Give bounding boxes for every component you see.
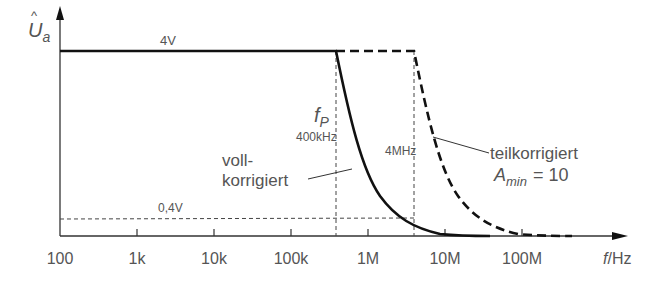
leader-teil bbox=[433, 137, 489, 153]
label-4mhz: 4MHz bbox=[385, 144, 416, 158]
x-axis-unit: /Hz bbox=[607, 250, 631, 267]
hat-icon: ^ bbox=[31, 8, 38, 23]
tick-1k: 1k bbox=[129, 250, 147, 267]
x-axis-arrow-icon bbox=[612, 232, 628, 240]
label-teilkorrigiert: teilkorrigiert bbox=[490, 144, 578, 163]
label-voll: voll- bbox=[222, 151, 253, 170]
tick-100m: 100M bbox=[502, 250, 542, 267]
x-axis-label: f/Hz bbox=[603, 250, 631, 267]
label-fp: fP bbox=[314, 104, 330, 130]
bode-plot: Ua ^ 4V 0,4V fP 400kHz 4MHz voll- korrig… bbox=[0, 0, 663, 288]
tick-100k: 100k bbox=[274, 250, 310, 267]
curve-voll-korrigiert bbox=[60, 51, 490, 236]
label-amin: Amin= 10 bbox=[493, 165, 569, 189]
reference-lines bbox=[60, 51, 414, 236]
tick-1m: 1M bbox=[357, 250, 379, 267]
tick-10m: 10M bbox=[429, 250, 460, 267]
y-axis-arrow-icon bbox=[56, 6, 64, 20]
label-400khz: 400kHz bbox=[296, 130, 337, 144]
tick-10k: 10k bbox=[201, 250, 228, 267]
label-0-4v: 0,4V bbox=[158, 201, 183, 215]
tick-100: 100 bbox=[47, 250, 74, 267]
x-tick-labels: 100 1k 10k 100k 1M 10M 100M bbox=[47, 250, 542, 267]
label-korrigiert: korrigiert bbox=[222, 171, 288, 190]
leader-voll bbox=[308, 169, 352, 179]
label-4v: 4V bbox=[160, 33, 176, 48]
ref-line-0-4v bbox=[60, 218, 414, 219]
